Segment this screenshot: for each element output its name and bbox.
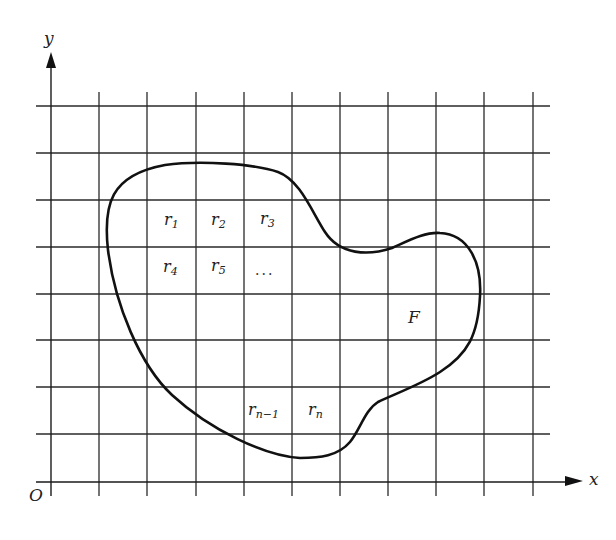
horizontal-grid-lines (36, 106, 550, 434)
region-label: F (408, 309, 420, 326)
axes (36, 52, 583, 496)
cell-label-r4: r4 (163, 259, 178, 277)
cell-label-r2: r2 (211, 212, 226, 230)
region-f-boundary (107, 163, 481, 458)
cell-label-r1: r1 (164, 212, 179, 230)
cell-label-r3: r3 (260, 211, 275, 229)
cell-ellipsis: ... (255, 262, 274, 278)
cell-label-rn-minus-1: rn−1 (248, 402, 279, 420)
origin-label: O (29, 487, 43, 504)
cell-label-rn: rn (308, 402, 323, 420)
x-axis-arrow-icon (565, 476, 583, 486)
y-axis-label: y (44, 30, 54, 47)
y-axis-arrow-icon (46, 52, 56, 68)
x-axis-label: x (589, 471, 599, 488)
grid-diagram (0, 0, 616, 540)
cell-label-r5: r5 (211, 258, 226, 276)
